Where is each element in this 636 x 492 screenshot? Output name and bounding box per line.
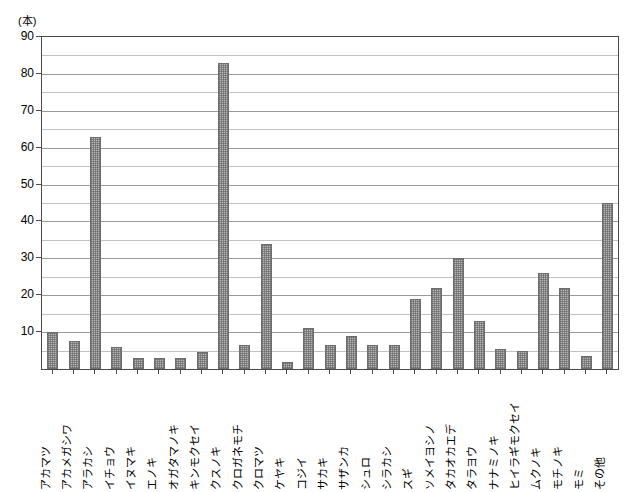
y-axis: 908070605040302010: [0, 0, 41, 372]
x-axis-label: モミ: [579, 378, 591, 490]
x-axis-tick-mark: [116, 370, 117, 374]
bar-series: [42, 37, 618, 369]
bar: [581, 356, 592, 369]
x-axis-label-text: ケヤキ: [274, 457, 286, 490]
bar: [346, 336, 357, 369]
x-axis-tick-mark: [478, 370, 479, 374]
x-axis-label: ナナミノキ: [494, 378, 506, 490]
x-axis-label-text: イヌマキ: [125, 446, 137, 490]
x-axis-tick-mark: [564, 370, 565, 374]
x-axis-label-text: クロガネモチ: [232, 424, 244, 490]
bar: [261, 244, 272, 369]
x-axis-label: シラカシ: [387, 378, 399, 490]
x-axis-label-text: タラヨウ: [466, 446, 478, 490]
x-axis-tick-mark: [329, 370, 330, 374]
x-axis-label: アカメガシワ: [67, 378, 79, 490]
x-axis-label: イヌマキ: [131, 378, 143, 490]
bar: [602, 203, 613, 369]
x-axis-label: ソメイヨシノ: [430, 378, 442, 490]
bar: [517, 351, 528, 369]
x-axis-tick-mark: [372, 370, 373, 374]
bar: [154, 358, 165, 369]
bar: [474, 321, 485, 369]
bar: [453, 258, 464, 369]
bar: [197, 352, 208, 369]
bar: [47, 332, 58, 369]
x-axis-label-text: アラカシ: [82, 446, 94, 490]
y-axis-tick-label: 90: [21, 30, 34, 42]
bar: [303, 328, 314, 369]
x-axis-label-text: ソメイヨシノ: [424, 424, 436, 490]
x-axis-tick-mark: [521, 370, 522, 374]
y-axis-tick-label: 20: [21, 288, 34, 300]
x-axis-tick-mark: [52, 370, 53, 374]
x-axis-label-text: クスノキ: [210, 446, 222, 490]
x-axis-tick-mark: [265, 370, 266, 374]
bar: [133, 358, 144, 369]
x-axis-tick-mark: [393, 370, 394, 374]
bar: [389, 345, 400, 369]
x-axis-tick-mark: [606, 370, 607, 374]
bar: [325, 345, 336, 369]
bar: [282, 362, 293, 369]
bar: [111, 347, 122, 369]
x-axis-label-text: エノキ: [146, 457, 158, 490]
x-axis-label: アカマツ: [46, 378, 58, 490]
x-axis-labels: アカマツアカメガシワアラカシイチョウイヌマキエノキオガタマノキキンモクセイクスノ…: [41, 376, 619, 492]
x-axis-label-text: ムクノキ: [530, 447, 542, 490]
bar: [495, 349, 506, 369]
bar: [538, 273, 549, 369]
bar: [175, 358, 186, 369]
x-axis-label: サカキ: [323, 378, 335, 490]
x-axis-label: エノキ: [152, 378, 164, 490]
x-axis-label: アラカシ: [88, 378, 100, 490]
x-axis-tick-mark: [414, 370, 415, 374]
bar-chart: (本) 908070605040302010 アカマツアカメガシワアラカシイチョ…: [0, 0, 636, 492]
x-axis-label-text: アカメガシワ: [61, 424, 73, 490]
x-axis-tick-mark: [158, 370, 159, 374]
x-axis-label-text: ヒイラギモクセイ: [509, 402, 521, 490]
x-axis-tick-mark: [201, 370, 202, 374]
bar: [239, 345, 250, 369]
x-axis-label-text: オガタマノキ: [168, 424, 180, 490]
x-axis-label-text: モチノキ: [552, 446, 564, 490]
x-axis-label-text: サカキ: [317, 457, 329, 490]
bar: [559, 288, 570, 369]
x-axis-label: ケヤキ: [280, 378, 292, 490]
x-axis-tick-mark: [73, 370, 74, 374]
x-axis-label: クスノキ: [216, 378, 228, 490]
x-axis-label-text: ナナミノキ: [488, 435, 500, 490]
bar: [431, 288, 442, 369]
y-axis-tick-label: 60: [21, 141, 34, 153]
x-axis-tick-mark: [222, 370, 223, 374]
x-axis-label-text: コジイ: [296, 457, 308, 490]
bar: [90, 137, 101, 369]
x-axis-label-text: クロマツ: [253, 446, 265, 490]
x-axis-tick-mark: [436, 370, 437, 374]
x-axis-label: モチノキ: [558, 378, 570, 490]
x-axis-label: シュロ: [366, 378, 378, 490]
x-axis-label: タカオカエデ: [451, 378, 463, 490]
x-axis-label-text: サザンカ: [338, 446, 350, 490]
x-axis-label: その他: [600, 378, 612, 490]
bar: [218, 63, 229, 369]
y-axis-tick-label: 80: [21, 67, 34, 79]
x-axis-label: クロガネモチ: [238, 378, 250, 490]
x-axis-label: サザンカ: [344, 378, 356, 490]
x-axis-label: ムクノキ: [536, 378, 548, 490]
x-axis-label-text: イチョウ: [104, 446, 116, 490]
x-axis-tick-mark: [244, 370, 245, 374]
x-axis-label-text: アカマツ: [40, 446, 52, 490]
x-axis-label: オガタマノキ: [174, 378, 186, 490]
y-axis-tick-label: 30: [21, 251, 34, 263]
x-axis-label: クロマツ: [259, 378, 271, 490]
x-axis-tick-mark: [137, 370, 138, 374]
x-axis-label: タラヨウ: [472, 378, 484, 490]
x-axis-label: キンモクセイ: [195, 378, 207, 490]
x-axis-tick-mark: [457, 370, 458, 374]
x-axis-label-text: スギ: [402, 468, 414, 490]
x-axis-tick-mark: [350, 370, 351, 374]
x-axis-label: コジイ: [302, 378, 314, 490]
x-axis-tick-mark: [542, 370, 543, 374]
x-axis-tick-mark: [180, 370, 181, 374]
